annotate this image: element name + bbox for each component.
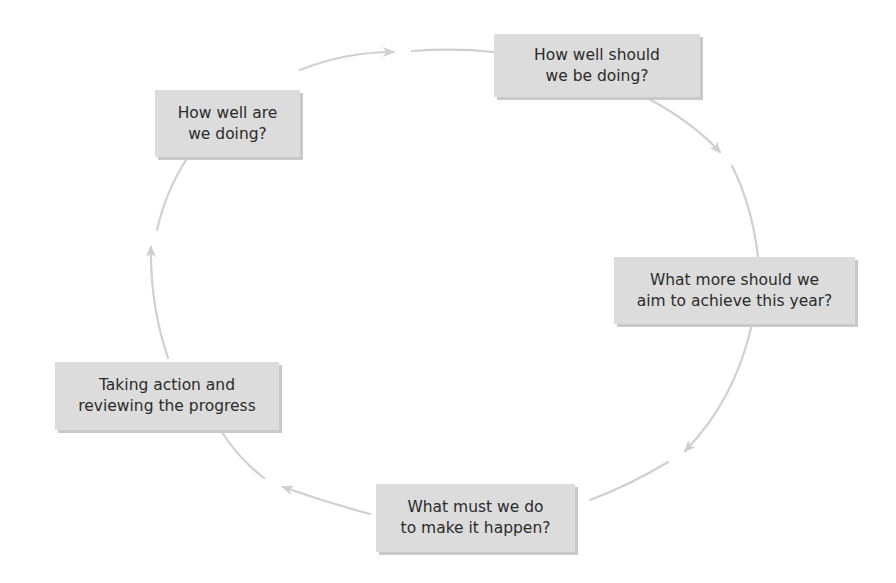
line-into-n3 bbox=[732, 166, 758, 257]
line-into-n5 bbox=[222, 432, 264, 478]
node-text-line: to make it happen? bbox=[401, 518, 551, 539]
node-text-line: How well should bbox=[534, 45, 660, 66]
arrow-n1-to-n2 bbox=[300, 52, 393, 70]
node-how-well-are-we-doing: How well are we doing? bbox=[155, 90, 300, 157]
node-what-must-we-do: What must we do to make it happen? bbox=[376, 484, 575, 552]
cycle-diagram: How well are we doing? How well should w… bbox=[0, 0, 896, 583]
arrow-n3-to-n4 bbox=[685, 324, 752, 451]
node-text-line: aim to achieve this year? bbox=[637, 291, 833, 312]
node-how-well-should-we-be-doing: How well should we be doing? bbox=[494, 34, 700, 97]
arrow-n5-to-n1 bbox=[151, 247, 168, 358]
node-text-line: reviewing the progress bbox=[78, 396, 255, 417]
node-text-line: How well are bbox=[178, 103, 278, 124]
line-into-n4 bbox=[590, 462, 668, 500]
line-into-n1 bbox=[157, 157, 188, 230]
node-taking-action-reviewing: Taking action and reviewing the progress bbox=[55, 362, 279, 430]
node-text-line: we doing? bbox=[178, 124, 278, 145]
node-text-line: What must we do bbox=[401, 497, 551, 518]
arrow-n4-to-n5 bbox=[283, 487, 370, 514]
line-into-n2 bbox=[412, 50, 494, 52]
arrow-n2-to-n3 bbox=[645, 97, 720, 152]
node-text-line: we be doing? bbox=[534, 66, 660, 87]
node-text-line: What more should we bbox=[637, 270, 833, 291]
node-text-line: Taking action and bbox=[78, 375, 255, 396]
node-what-more-should-we-aim: What more should we aim to achieve this … bbox=[614, 257, 855, 324]
